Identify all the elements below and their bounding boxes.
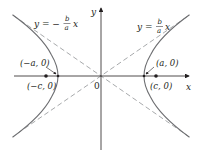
asymptote-positive-label: y = b a x — [136, 18, 170, 35]
focus-left-label: (−c, 0) — [27, 81, 56, 91]
vertex-right-pointer — [146, 67, 154, 74]
focus-left-point — [44, 74, 48, 78]
origin-label: 0 — [94, 81, 100, 91]
svg-text:b: b — [158, 18, 163, 26]
svg-text:y = −: y = − — [33, 19, 60, 29]
svg-text:a: a — [65, 24, 69, 32]
hyperbola-diagram: y x 0 y = b a x y = − b a x (a, 0) (−a, … — [0, 0, 203, 152]
vertex-right-label: (a, 0) — [156, 58, 179, 68]
svg-text:y =: y = — [136, 22, 153, 32]
asymptote-positive — [18, 16, 188, 133]
svg-text:b: b — [65, 15, 70, 23]
vertex-left-label: (−a, 0) — [20, 58, 50, 68]
svg-text:a: a — [157, 27, 161, 35]
svg-text:x: x — [165, 22, 170, 32]
focus-right-point — [154, 74, 158, 78]
vertex-right-point — [143, 75, 146, 78]
x-axis-label: x — [186, 82, 191, 92]
vertex-left-point — [57, 75, 60, 78]
asymptote-negative-label: y = − b a x — [33, 15, 78, 32]
svg-text:x: x — [73, 19, 78, 29]
y-axis-label: y — [90, 7, 97, 17]
focus-right-label: (c, 0) — [150, 81, 172, 91]
vertex-left-pointer — [46, 67, 56, 74]
